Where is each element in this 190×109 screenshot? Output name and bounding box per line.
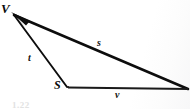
side-label-s: s bbox=[97, 38, 101, 48]
figure-caption-fragment: 1.22 bbox=[12, 101, 30, 109]
edge-v-line bbox=[68, 88, 188, 90]
vertex-label-v: V bbox=[1, 2, 10, 15]
side-label-t: t bbox=[28, 53, 31, 63]
side-label-v: v bbox=[115, 90, 119, 100]
vertex-node-s bbox=[67, 86, 69, 88]
vector-diagram-figure: V S s t v 1.22 bbox=[0, 0, 190, 109]
vertex-label-s: S bbox=[54, 79, 61, 91]
